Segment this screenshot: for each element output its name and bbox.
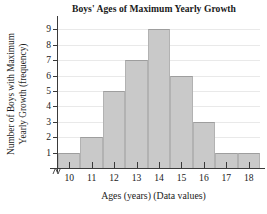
x-tick bbox=[92, 162, 93, 169]
x-tick-label-18: 18 bbox=[238, 172, 260, 183]
y-tick bbox=[53, 76, 58, 77]
y-axis-label: Number of Boys with Maximum Yearly Growt… bbox=[0, 18, 34, 170]
x-tick-label-12: 12 bbox=[103, 172, 125, 183]
y-tick-label-4: 4 bbox=[38, 101, 51, 111]
x-tick bbox=[137, 162, 138, 169]
y-axis-label-line-1: Number of Boys with Maximum bbox=[6, 33, 18, 155]
y-tick-label-6: 6 bbox=[38, 71, 51, 81]
bar-12 bbox=[103, 91, 125, 168]
x-tick bbox=[181, 162, 182, 169]
y-tick bbox=[53, 137, 58, 138]
bar-13 bbox=[125, 60, 147, 168]
histogram-figure: Boys' Ages of Maximum Yearly Growth Numb… bbox=[0, 0, 267, 214]
x-tick-label-15: 15 bbox=[170, 172, 192, 183]
y-tick bbox=[53, 91, 58, 92]
y-tick bbox=[53, 45, 58, 46]
y-tick-label-7: 7 bbox=[38, 55, 51, 65]
x-tick-label-13: 13 bbox=[126, 172, 148, 183]
y-tick bbox=[53, 106, 58, 107]
x-axis-line bbox=[50, 168, 265, 169]
x-tick bbox=[114, 162, 115, 169]
chart-title: Boys' Ages of Maximum Yearly Growth bbox=[44, 3, 264, 15]
bar-14 bbox=[148, 29, 170, 168]
x-tick-label-14: 14 bbox=[148, 172, 170, 183]
y-tick-label-8: 8 bbox=[38, 40, 51, 50]
y-tick-label-2: 2 bbox=[38, 132, 51, 142]
plot-area bbox=[58, 20, 260, 168]
x-tick-label-17: 17 bbox=[215, 172, 237, 183]
y-tick-label-9: 9 bbox=[38, 24, 51, 34]
x-tick bbox=[159, 162, 160, 169]
x-axis-label: Ages (years) (Data values) bbox=[40, 190, 267, 202]
y-tick-label-1: 1 bbox=[38, 148, 51, 158]
bar-15 bbox=[170, 76, 192, 169]
y-axis-label-text: Number of Boys with Maximum Yearly Growt… bbox=[6, 33, 29, 155]
x-tick bbox=[249, 162, 250, 169]
y-axis-line bbox=[57, 16, 58, 172]
x-tick bbox=[204, 162, 205, 169]
y-tick-label-5: 5 bbox=[38, 86, 51, 96]
x-tick-label-16: 16 bbox=[193, 172, 215, 183]
bar-series bbox=[58, 20, 260, 168]
y-tick bbox=[53, 60, 58, 61]
axis-break-icon bbox=[52, 162, 63, 173]
y-tick bbox=[53, 153, 58, 154]
x-tick bbox=[226, 162, 227, 169]
y-tick-label-3: 3 bbox=[38, 117, 51, 127]
y-tick bbox=[53, 122, 58, 123]
y-tick bbox=[53, 29, 58, 30]
x-tick-label-11: 11 bbox=[81, 172, 103, 183]
x-tick bbox=[69, 162, 70, 169]
y-axis-label-line-2: Yearly Growth (frequency) bbox=[17, 33, 29, 155]
